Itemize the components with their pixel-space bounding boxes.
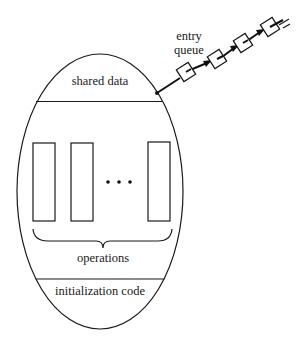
entry-queue-label-line2: queue	[174, 43, 204, 57]
shared-data-label: shared data	[72, 74, 129, 88]
operations-label: operations	[77, 251, 129, 265]
ellipsis-dot-3	[128, 180, 132, 184]
initialization-code-label: initialization code	[55, 284, 145, 298]
operations-brace	[33, 229, 172, 248]
operation-box-1	[33, 143, 55, 221]
monitor-diagram: shared data operations initialization co…	[0, 0, 305, 347]
operation-box-2	[71, 143, 93, 221]
queue-connector	[157, 78, 180, 93]
ellipsis-dot-1	[106, 180, 110, 184]
entry-queue-label-line1: entry	[176, 29, 202, 43]
ellipsis-dot-2	[117, 180, 121, 184]
operation-box-n	[148, 142, 170, 221]
